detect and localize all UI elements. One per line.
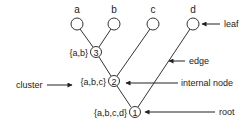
leaf-node-c [147,18,159,30]
edge-b-3 [99,29,111,47]
leaf-label-a: a [74,4,80,15]
annotation-internal-node: internal node [181,78,233,88]
leaf-node-a [71,18,83,30]
annotation-leaf: leaf [224,19,239,29]
edge-d-1 [138,29,190,107]
annotation-edge: edge [189,56,209,66]
cluster-label-abc: {a,b,c} [80,77,106,87]
edge-c-2 [117,29,150,76]
annotation-cluster: cluster [16,80,43,90]
edge-2-1 [117,86,131,107]
leaf-label-b: b [111,4,117,15]
node-number-3: 3 [93,48,98,58]
edges [80,29,190,107]
node-number-1: 1 [132,108,137,118]
annotation-root: root [219,107,235,117]
edge-3-2 [99,57,111,76]
leaf-label-d: d [190,4,196,15]
edge-a-3 [80,29,93,47]
leaf-node-b [108,18,120,30]
tree-diagram: a b c d 3 2 1 {a,b} {a,b,c} {a,b,c,d} le… [0,0,249,126]
node-number-2: 2 [111,77,116,87]
cluster-label-abcd: {a,b,c,d} [94,108,127,118]
leaf-node-d [187,18,199,30]
leaf-label-c: c [151,4,156,15]
cluster-label-ab: {a,b} [69,48,88,58]
